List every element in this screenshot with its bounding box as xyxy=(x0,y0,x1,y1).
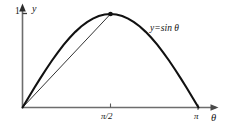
y-axis-arrowhead xyxy=(19,4,26,12)
plot-canvas xyxy=(0,0,226,127)
sine-curve-figure: y 1 θ π/2 π y=sin θ xyxy=(0,0,226,127)
x-tick-label-half-pi: π/2 xyxy=(101,112,113,121)
chord-line xyxy=(23,14,111,108)
x-axis-label-theta: θ xyxy=(211,113,216,124)
y-tick-label-one: 1 xyxy=(15,7,20,17)
peak-point-marker xyxy=(108,12,113,17)
y-axis-label: y xyxy=(32,4,36,14)
x-tick-label-pi: π xyxy=(194,112,199,121)
curve-equation-label: y=sin θ xyxy=(150,24,179,34)
x-axis-arrowhead xyxy=(211,104,219,111)
